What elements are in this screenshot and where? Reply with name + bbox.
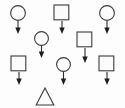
triangle-icon[interactable]	[35, 87, 55, 107]
circle-outline	[57, 58, 71, 72]
arrow-head-down-icon	[61, 79, 66, 86]
square-outline	[77, 32, 92, 47]
square-with-down-arrow-icon[interactable]	[98, 55, 116, 86]
triangle-outline	[36, 88, 54, 105]
circle-outline	[35, 32, 49, 46]
square-with-down-arrow-icon[interactable]	[53, 4, 71, 35]
square-with-down-arrow-icon[interactable]	[10, 55, 28, 86]
square-outline	[11, 56, 26, 71]
circle-outline	[11, 6, 26, 21]
circle-with-down-arrow-icon[interactable]	[9, 4, 27, 35]
circle-with-down-arrow-icon[interactable]	[55, 56, 72, 86]
circle-outline	[100, 6, 115, 21]
circle-with-down-arrow-icon[interactable]	[98, 4, 116, 35]
arrow-head-down-icon	[15, 28, 20, 35]
arrow-head-down-icon	[59, 28, 64, 35]
arrow-head-down-icon	[39, 52, 44, 59]
diagram-canvas	[0, 0, 125, 108]
square-outline	[54, 5, 69, 20]
arrow-head-down-icon	[104, 79, 109, 86]
arrow-head-down-icon	[104, 28, 109, 35]
square-outline	[99, 56, 114, 71]
circle-with-down-arrow-icon[interactable]	[33, 30, 50, 59]
arrow-head-down-icon	[16, 79, 21, 86]
arrow-head-down-icon	[82, 57, 87, 64]
square-with-down-arrow-icon[interactable]	[76, 31, 94, 64]
